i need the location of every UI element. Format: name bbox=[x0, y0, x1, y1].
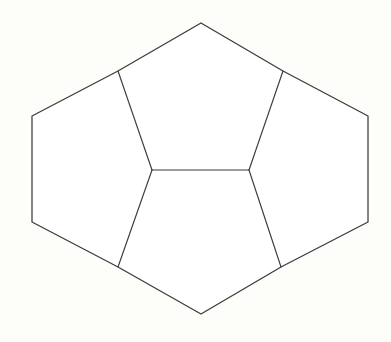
hexagon-figure-canvas: Subdivided Hexagon A convex hexagon part… bbox=[0, 0, 391, 342]
